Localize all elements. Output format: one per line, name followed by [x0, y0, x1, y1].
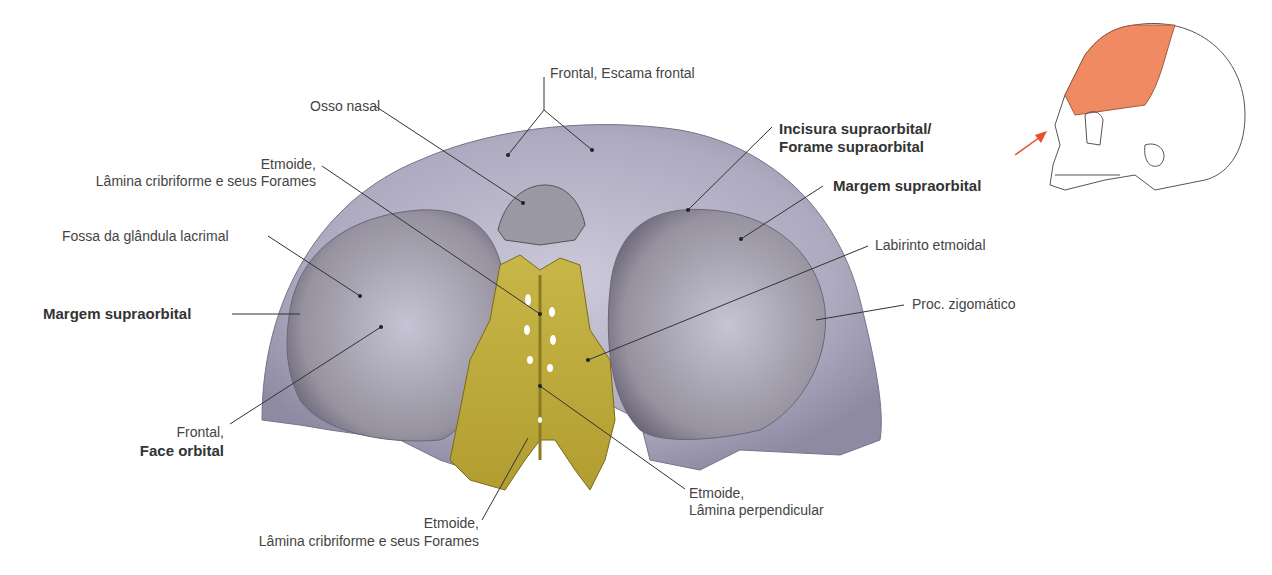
- right-orbit-shape: [608, 209, 825, 439]
- label-etmoide-bottom-2: Lâmina cribriforme e seus Forames: [259, 533, 479, 550]
- label-etmoide-bottom-1: Etmoide,: [424, 515, 479, 532]
- frontal-bone-illustration: [0, 0, 1272, 575]
- label-etmoide-perp-1: Etmoide,: [689, 485, 744, 502]
- label-margem-supraorbital-right: Margem supraorbital: [833, 177, 981, 194]
- label-incisura-1: Incisura supraorbital/: [779, 120, 932, 137]
- label-proc-zigomatico: Proc. zigomático: [912, 296, 1015, 313]
- label-frontal-escama: Frontal, Escama frontal: [550, 65, 695, 82]
- label-etmoide-top-1: Etmoide,: [261, 156, 316, 173]
- label-frontal-face-1: Frontal,: [177, 424, 224, 441]
- skull-thumbnail: [1015, 23, 1245, 190]
- label-etmoide-top-2: Lâmina cribriforme e seus Forames: [96, 173, 316, 190]
- label-labirinto-etmoidal: Labirinto etmoidal: [875, 237, 986, 254]
- label-frontal-face-2: Face orbital: [140, 442, 224, 459]
- label-incisura-2: Forame supraorbital: [779, 138, 924, 155]
- label-fossa-lacrimal: Fossa da glândula lacrimal: [62, 228, 229, 245]
- label-etmoide-perp-2: Lâmina perpendicular: [689, 502, 824, 519]
- label-osso-nasal: Osso nasal: [310, 98, 380, 115]
- label-margem-supraorbital-left: Margem supraorbital: [43, 305, 191, 322]
